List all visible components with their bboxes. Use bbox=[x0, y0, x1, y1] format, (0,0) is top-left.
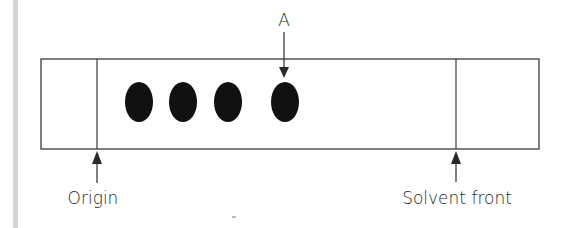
spot bbox=[169, 82, 197, 122]
scan-speck bbox=[232, 216, 236, 218]
chromatography-diagram: A Origin Solvent front bbox=[0, 0, 563, 228]
origin-label: Origin bbox=[68, 188, 119, 208]
origin-arrowhead-icon bbox=[92, 151, 102, 164]
solvent-front-label: Solvent front bbox=[402, 188, 512, 208]
spot-a bbox=[271, 82, 299, 122]
spot bbox=[125, 82, 153, 122]
spot-a-label: A bbox=[278, 10, 290, 30]
spot-a-arrowhead-icon bbox=[279, 67, 289, 78]
spot bbox=[214, 82, 242, 122]
solvent-front-arrowhead-icon bbox=[451, 151, 461, 164]
